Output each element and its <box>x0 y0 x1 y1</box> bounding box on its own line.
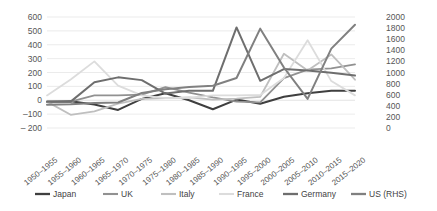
left-axis-tick: 0 <box>37 95 42 105</box>
right-axis-tick: 1000 <box>386 68 405 78</box>
left-axis-tick: – 200 <box>21 123 43 133</box>
left-axis-tick: 500 <box>28 26 42 36</box>
right-axis-tick: 1800 <box>386 23 405 33</box>
line-chart: 6005004003002001000–100– 200 20001800160… <box>0 0 437 211</box>
right-axis-tick: 1200 <box>386 56 405 66</box>
legend-label-uk: UK <box>121 189 133 199</box>
legend-label-italy: Italy <box>179 189 195 199</box>
chart-container: 6005004003002001000–100– 200 20001800160… <box>0 0 437 211</box>
right-axis-tick: 1400 <box>386 45 405 55</box>
series-line-germany <box>47 27 355 101</box>
left-axis-tick-labels: 6005004003002001000–100– 200 <box>21 12 43 133</box>
right-axis-tick: 0 <box>386 123 391 133</box>
right-axis-tick-labels: 2000180016001400120010008006004002000 <box>386 12 405 133</box>
left-axis-tick: 300 <box>28 54 42 64</box>
legend-label-france: France <box>237 189 264 199</box>
right-axis-tick: 200 <box>386 112 400 122</box>
right-axis-tick: 600 <box>386 90 400 100</box>
legend-label-japan: Japan <box>53 189 76 199</box>
right-axis-tick: 400 <box>386 101 400 111</box>
x-axis-tick-labels: 1950–19551955–19601960–19651965–19701970… <box>22 155 368 187</box>
chart-legend: JapanUKItalyFranceGermanyUS (RHS) <box>35 189 407 199</box>
data-series <box>47 25 355 115</box>
right-axis-tick: 800 <box>386 79 400 89</box>
left-axis-tick: –100 <box>23 109 42 119</box>
left-axis-tick: 400 <box>28 40 42 50</box>
right-axis-tick: 1600 <box>386 34 405 44</box>
legend-label-us-rhs: US (RHS) <box>369 189 407 199</box>
left-axis-tick: 200 <box>28 68 42 78</box>
left-axis-tick: 600 <box>28 12 42 22</box>
left-axis-tick: 100 <box>28 81 42 91</box>
right-axis-tick: 2000 <box>386 12 405 22</box>
legend-label-germany: Germany <box>301 189 337 199</box>
